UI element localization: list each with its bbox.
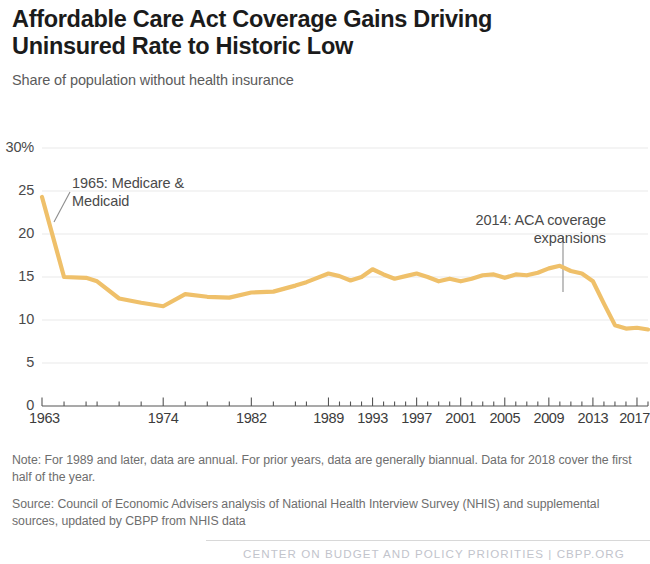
footnote-source: Source: Council of Economic Advisers ana… [12,496,642,531]
leader-line-medicare [54,192,70,222]
x-axis-ticks-group [42,398,648,407]
x-axis-tick-label: 2017 [619,410,650,426]
annotation-aca-label: 2014: ACA coverage expansions [476,212,606,247]
x-axis-tick-label: 1989 [313,410,344,426]
footer-credit: CENTER ON BUDGET AND POLICY PRIORITIES |… [243,547,625,560]
x-axis-tick-label: 2009 [533,410,564,426]
chart-subtitle: Share of population without health insur… [12,72,638,88]
x-axis-tick-label: 1974 [148,410,179,426]
annotation-medicare-label: 1965: Medicare & Medicaid [72,175,184,210]
y-axis-tick-label: 15 [0,268,34,284]
x-axis-tick-label: 1997 [401,410,432,426]
footnotes-block: Note: For 1989 and later, data are annua… [12,452,642,540]
x-axis-tick-label: 2013 [578,410,609,426]
x-axis-tick-label: 1993 [357,410,388,426]
chart-plot-area: 051015202530% 19631974198219891993199720… [0,132,650,432]
y-axis-tick-label: 30% [0,139,34,155]
page-title: Affordable Care Act Coverage Gains Drivi… [12,6,638,61]
footer-divider [206,540,650,541]
y-axis-tick-label: 10 [0,311,34,327]
chart-header: Affordable Care Act Coverage Gains Drivi… [12,6,638,88]
x-axis-tick-label: 1982 [236,410,267,426]
footnote-note: Note: For 1989 and later, data are annua… [12,452,642,487]
y-axis-tick-label: 5 [0,354,34,370]
x-axis-tick-label: 2001 [445,410,476,426]
x-axis-tick-label: 2005 [489,410,520,426]
y-axis-tick-label: 25 [0,182,34,198]
x-axis-tick-label: 1963 [29,410,60,426]
y-axis-tick-label: 20 [0,225,34,241]
